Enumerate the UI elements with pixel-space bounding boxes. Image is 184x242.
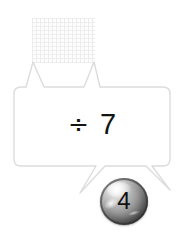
numbered-marble[interactable]: 4 bbox=[100, 178, 148, 225]
marble-number-label: 4 bbox=[100, 178, 148, 225]
operation-bubble[interactable] bbox=[0, 0, 184, 242]
math-operation-canvas: ÷ 7 4 bbox=[0, 0, 184, 242]
operation-bubble-outline bbox=[0, 0, 184, 242]
